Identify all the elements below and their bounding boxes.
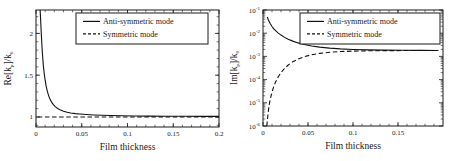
chart-panel-left: 00.050.10.150.211.52Film thicknessRe[kp]… xyxy=(0,0,228,161)
y-axis-title-mid: ]/k xyxy=(3,54,13,65)
y-axis-title-mid: ]/k xyxy=(229,53,239,64)
x-tick-label: 0.1 xyxy=(349,129,358,137)
y-tick-label: 1.5 xyxy=(24,72,33,80)
legend-label-1: Symmetric mode xyxy=(327,30,382,39)
legend-label-1: Symmetric mode xyxy=(103,30,158,39)
y-tick-exponent: -3 xyxy=(256,52,261,57)
y-tick-label: 10-4 xyxy=(249,75,261,84)
y-tick-exponent: -6 xyxy=(256,122,261,127)
y-tick-label: 10-2 xyxy=(249,29,261,38)
y-axis-title-sub-0: 0 xyxy=(9,51,14,54)
y-tick-label: 1 xyxy=(30,113,34,121)
figure-container: 00.050.10.150.211.52Film thicknessRe[kp]… xyxy=(0,0,455,161)
y-tick-exponent: -4 xyxy=(256,75,261,80)
chart-left-svg: 00.050.10.150.211.52Film thicknessRe[kp]… xyxy=(0,0,228,161)
x-axis-title: Film thickness xyxy=(325,141,381,151)
y-tick-label: 10-3 xyxy=(249,52,261,61)
y-axis-title-sub-0: 0 xyxy=(235,50,240,53)
y-axis-title-prefix: Im[k xyxy=(229,66,239,85)
y-axis-title: Im[kp]/k0 xyxy=(229,50,240,85)
y-tick-label: 2 xyxy=(30,30,34,38)
y-tick-label: 10-1 xyxy=(249,6,261,15)
y-tick-label: 10-6 xyxy=(249,122,261,131)
x-tick-label: 0.1 xyxy=(123,130,132,138)
x-tick-label: 0.15 xyxy=(167,130,180,138)
x-tick-label: 0.2 xyxy=(215,130,224,138)
legend-label-0: Anti-symmetric mode xyxy=(327,17,398,26)
y-axis-title-prefix: Re[k xyxy=(3,67,13,86)
chart-right-svg: 00.050.10.1510-110-210-310-410-510-6Film… xyxy=(227,0,455,161)
x-axis-title: Film thickness xyxy=(100,142,156,152)
y-axis-title: Re[kp]/k0 xyxy=(3,51,14,86)
x-tick-label: 0.05 xyxy=(302,129,315,137)
x-tick-label: 0.05 xyxy=(76,130,89,138)
x-tick-label: 0 xyxy=(34,130,38,138)
curve-dashed xyxy=(267,50,439,126)
y-tick-label: 10-5 xyxy=(249,98,261,107)
chart-panel-right: 00.050.10.1510-110-210-310-410-510-6Film… xyxy=(227,0,455,161)
y-tick-exponent: -2 xyxy=(256,29,261,34)
x-tick-label: 0.15 xyxy=(392,129,405,137)
x-tick-label: 0 xyxy=(261,129,265,137)
y-tick-exponent: -5 xyxy=(256,98,261,103)
legend-label-0: Anti-symmetric mode xyxy=(103,17,174,26)
y-tick-exponent: -1 xyxy=(256,6,261,11)
